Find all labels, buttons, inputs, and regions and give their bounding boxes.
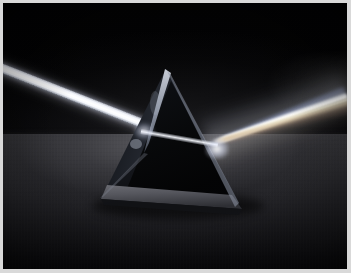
beam-exit-flare (205, 139, 229, 159)
prism-glint-upper (150, 91, 160, 115)
photograph-frame (0, 0, 351, 273)
photograph-canvas (3, 3, 347, 269)
beam-entry-flare (134, 123, 154, 139)
prism-glint-lower (130, 139, 142, 149)
